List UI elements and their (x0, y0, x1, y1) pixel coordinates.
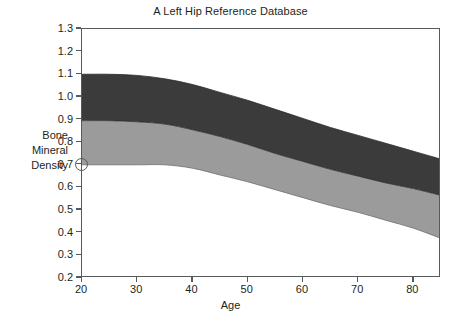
y-axis-tick-label: 0.4 (58, 225, 73, 239)
x-axis-tick-label: 50 (241, 283, 253, 295)
x-axis-tick-mark (191, 277, 192, 282)
y-axis-tick: 1.3 (58, 21, 81, 35)
x-axis-tick-label: 40 (185, 283, 197, 295)
y-axis-tick-label: 1.1 (58, 66, 73, 80)
x-axis-tick-mark (136, 277, 137, 282)
y-axis-tick: 0.6 (58, 179, 81, 193)
y-axis-tick: 1.1 (58, 66, 81, 80)
y-axis-tick: 1.2 (58, 44, 81, 58)
x-axis-tick-label: 80 (406, 283, 418, 295)
y-axis-tick: 0.5 (58, 202, 81, 216)
y-axis-tick: 0.2 (58, 270, 81, 284)
y-axis-tick: 0.3 (58, 247, 81, 261)
y-axis-tick-label: 0.6 (58, 179, 73, 193)
y-axis-tick: 0.8 (58, 134, 81, 148)
reference-bands (82, 29, 440, 277)
y-axis-tick-label: 0.9 (58, 112, 73, 126)
x-axis-tick-mark (81, 277, 82, 282)
chart-figure: A Left Hip Reference Database Bone Miner… (0, 0, 461, 320)
y-axis-tick: 0.4 (58, 225, 81, 239)
y-axis: 0.20.30.40.50.60.70.80.91.01.11.21.3 (0, 0, 81, 320)
y-axis-tick: 1.0 (58, 89, 81, 103)
patient-value-marker-icon (75, 158, 88, 171)
y-axis-tick-label: 1.3 (58, 21, 73, 35)
x-axis-tick-mark (357, 277, 358, 282)
y-axis-tick-label: 0.5 (58, 202, 73, 216)
y-axis-tick-label: 0.8 (58, 134, 73, 148)
x-axis-tick-label: 60 (296, 283, 308, 295)
y-axis-tick-label: 0.2 (58, 270, 73, 284)
y-axis-tick-label: 1.0 (58, 89, 73, 103)
y-axis-tick-label: 0.3 (58, 247, 73, 261)
x-axis-tick-mark (247, 277, 248, 282)
x-axis-tick-mark (302, 277, 303, 282)
x-axis-tick-label: 30 (130, 283, 142, 295)
x-axis-tick-label: 70 (351, 283, 363, 295)
y-axis-tick-label: 1.2 (58, 44, 73, 58)
y-axis-tick-label: 0.7 (58, 157, 73, 171)
x-axis-title: Age (0, 299, 461, 311)
x-axis-tick-mark (412, 277, 413, 282)
y-axis-tick: 0.9 (58, 112, 81, 126)
x-axis-tick-label: 20 (75, 283, 87, 295)
plot-area (81, 28, 440, 277)
